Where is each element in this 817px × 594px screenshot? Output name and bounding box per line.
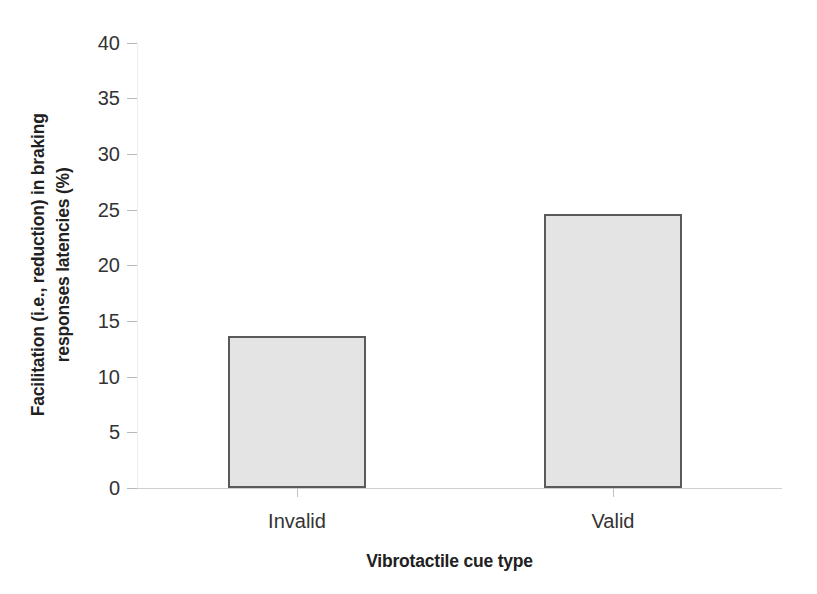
x-tick-mark-valid <box>613 488 614 497</box>
y-tick-mark-25 <box>127 210 137 211</box>
y-axis-tick-labels: 40 35 30 25 20 15 10 5 0 <box>58 0 120 594</box>
y-tick-label-25: 25 <box>60 200 120 220</box>
x-category-label-invalid: Invalid <box>167 511 427 531</box>
y-tick-label-20: 20 <box>60 255 120 275</box>
x-category-label-valid: Valid <box>483 511 743 531</box>
bar-valid[interactable] <box>544 214 682 488</box>
y-axis-title-line-1: Facilitation (i.e., reduction) in brakin… <box>25 114 50 417</box>
y-tick-label-5: 5 <box>60 422 120 442</box>
plot-area <box>137 43 762 488</box>
x-axis-title: Vibrotactile cue type <box>137 553 762 571</box>
y-tick-label-35: 35 <box>60 88 120 108</box>
y-tick-mark-30 <box>127 154 137 155</box>
x-tick-mark-invalid <box>297 488 298 497</box>
y-tick-mark-5 <box>127 432 137 433</box>
y-tick-label-30: 30 <box>60 144 120 164</box>
x-axis-baseline <box>137 488 782 489</box>
y-tick-label-10: 10 <box>60 367 120 387</box>
bar-chart-figure: Facilitation (i.e., reduction) in brakin… <box>0 0 817 594</box>
y-tick-label-40: 40 <box>60 33 120 53</box>
bar-invalid[interactable] <box>228 336 366 488</box>
y-tick-mark-35 <box>127 98 137 99</box>
y-tick-label-15: 15 <box>60 311 120 331</box>
y-tick-mark-10 <box>127 377 137 378</box>
y-tick-mark-15 <box>127 321 137 322</box>
y-tick-label-0: 0 <box>60 478 120 498</box>
y-tick-mark-0 <box>127 488 137 489</box>
y-tick-mark-40 <box>127 43 137 44</box>
y-tick-mark-20 <box>127 265 137 266</box>
